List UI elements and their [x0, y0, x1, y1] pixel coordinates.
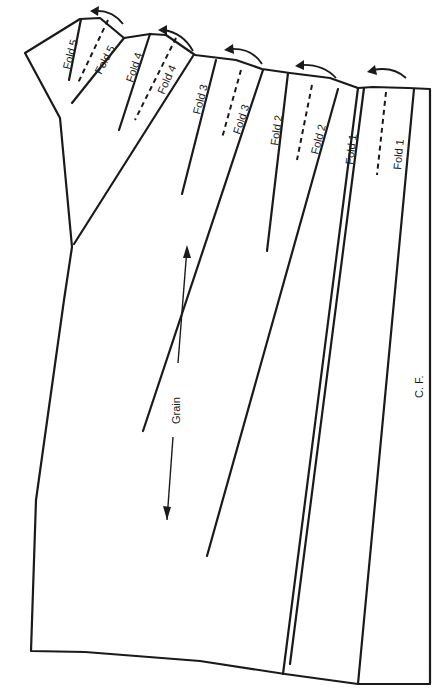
fold1-solid-line	[358, 89, 414, 684]
fold2-edge-line	[207, 89, 338, 556]
fold3-solid-line	[182, 60, 216, 194]
fold4-label-a: Fold 4	[123, 51, 144, 84]
fold2-solid-line	[267, 73, 288, 251]
fold1-left-line	[290, 88, 364, 664]
fold1-label-a: Fold 1	[343, 133, 359, 165]
grain-arrow-icon	[163, 245, 191, 520]
fold1-label-b: Fold 1	[391, 139, 406, 171]
fold3-arrow-icon	[224, 44, 262, 64]
fold5-label-a: Fold 5	[60, 38, 80, 71]
fold1-arrow-icon	[367, 65, 406, 78]
pattern-diagram: Fold 5 Fold 5 Fold 4 Fold 4 Fold 3 Fold …	[0, 0, 443, 693]
grain-label: Grain	[170, 397, 182, 424]
fold5-label-b: Fold 5	[92, 43, 117, 76]
fold1-dashed-line	[377, 92, 386, 175]
center-front-label: C. F.	[413, 375, 425, 398]
fold3-label-b: Fold 3	[230, 103, 251, 136]
fold4-label-b: Fold 4	[155, 63, 178, 96]
fold2-label-a: Fold 2	[268, 114, 284, 146]
fold2-long-line	[283, 88, 358, 674]
